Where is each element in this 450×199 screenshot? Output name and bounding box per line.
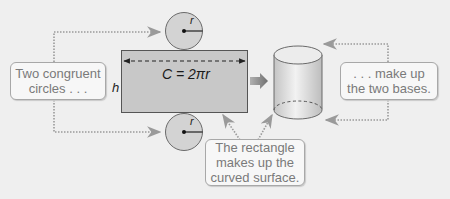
top-circle	[166, 13, 203, 50]
radius-label-top: r	[190, 14, 194, 26]
radius-label-bottom: r	[190, 115, 194, 127]
callout-left-line1: Two congruent	[15, 66, 100, 81]
cylinder-net-diagram: r r h C = 2πr Two congruent circles . . …	[0, 0, 450, 199]
callout-right-line2: the two bases.	[347, 81, 431, 96]
bottom-circle	[166, 114, 203, 151]
bottom-leader-lines	[223, 115, 272, 140]
transform-arrow-icon	[250, 73, 268, 89]
callout-bottom-line1: The rectangle	[211, 140, 300, 155]
cylinder	[274, 46, 322, 119]
callout-bottom-line2: makes up the	[211, 155, 300, 170]
circumference-formula: C = 2πr	[162, 66, 210, 82]
callout-rectangle-curved-surface: The rectangle makes up the curved surfac…	[205, 139, 305, 186]
callout-left-line2: circles . . .	[15, 81, 100, 96]
height-label: h	[112, 80, 119, 95]
callout-right-line1: . . . make up	[347, 66, 431, 81]
callout-two-congruent-circles: Two congruent circles . . .	[10, 62, 106, 100]
callout-make-up-bases: . . . make up the two bases.	[340, 62, 438, 100]
callout-bottom-line3: curved surface.	[211, 170, 300, 185]
